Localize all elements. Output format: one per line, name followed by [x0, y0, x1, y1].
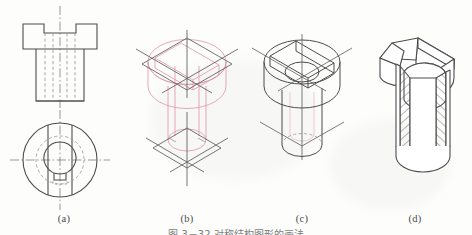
shank-left-face — [396, 64, 400, 150]
figure-caption: 图 3－32 对称结构图形的画法 — [0, 226, 472, 235]
panel-d-finished: (d) — [358, 0, 472, 235]
shank-right-face — [446, 70, 450, 150]
orthographic-drawing — [0, 0, 128, 215]
axis-bottom-right — [302, 122, 344, 146]
right-section-hatch — [436, 72, 446, 156]
lower-tick-a — [169, 138, 176, 142]
figure-sheet: (a) — [0, 0, 472, 235]
panel-c-ellipses: (c) — [246, 0, 358, 235]
panel-c-label: (c) — [246, 213, 358, 224]
lower-tick-b — [198, 138, 205, 142]
finished-isometric-drawing — [358, 0, 472, 215]
lower-axis-right — [170, 138, 228, 172]
left-section-hatch — [400, 66, 410, 156]
shank-bottom-outline — [396, 146, 450, 172]
panel-b-construction: (b) — [128, 0, 246, 235]
panel-a-label: (a) — [0, 213, 128, 224]
isometric-construction-drawing — [128, 0, 246, 215]
isometric-ellipse-drawing — [246, 0, 358, 215]
panel-a-orthographic: (a) — [0, 0, 128, 235]
panel-d-label: (d) — [358, 213, 472, 224]
lower-axis-left — [146, 138, 204, 172]
panel-b-label: (b) — [128, 213, 246, 224]
top-view-hidden-keyway — [53, 181, 67, 184]
